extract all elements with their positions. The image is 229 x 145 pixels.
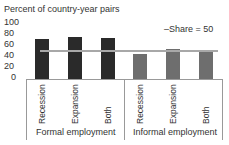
- x-label-1: Expansion: [70, 84, 80, 124]
- group-label-formal: Formal employment: [36, 127, 116, 137]
- legend: –Share = 50: [164, 24, 213, 34]
- group-label-informal: Informal employment: [133, 127, 217, 137]
- bar-2: [101, 38, 115, 79]
- bar-4: [166, 49, 180, 79]
- group-divider-right: [222, 79, 223, 140]
- x-label-2: Both: [103, 107, 113, 125]
- bar-0: [35, 39, 49, 79]
- group-divider-mid: [124, 79, 125, 140]
- y-tick-40: 40: [4, 50, 24, 60]
- y-tick-60: 60: [4, 39, 24, 49]
- y-tick-80: 80: [4, 28, 24, 38]
- y-axis-title: Percent of country-year pairs: [4, 4, 120, 14]
- x-label-0: Recession: [37, 84, 47, 124]
- bar-3: [133, 54, 147, 79]
- x-label-3: Recession: [135, 84, 145, 124]
- x-label-4: Expansion: [168, 84, 178, 124]
- bar-5: [199, 50, 213, 79]
- x-label-5: Both: [201, 107, 211, 125]
- group-divider-left: [26, 79, 27, 140]
- reference-line: [40, 50, 218, 52]
- y-tick-100: 100: [4, 17, 24, 27]
- y-tick-20: 20: [4, 61, 24, 71]
- bar-1: [68, 37, 82, 79]
